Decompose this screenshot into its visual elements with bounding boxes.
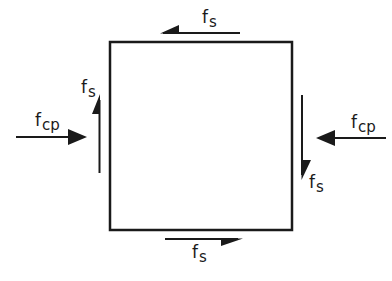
label-base: f [202,7,208,27]
label-subscript: s [199,248,207,266]
diagram-canvas [0,0,392,281]
shear-left-arrow [92,94,100,173]
label-shear-left: fs [81,79,96,96]
shear-right-arrow [302,95,312,180]
label-compression-right: fcp [351,114,376,131]
label-subscript: s [316,178,324,196]
label-subscript: s [88,83,96,101]
stress-element-square [110,42,292,230]
label-base: f [351,112,357,132]
label-base: f [35,110,41,130]
label-shear-top: fs [202,9,217,26]
label-shear-bottom: fs [192,244,207,261]
label-base: f [309,172,315,192]
stress-element-diagram: fs fs fs fs fcp fcp [0,0,392,281]
shear-top-arrow [160,25,240,34]
label-subscript: cp [42,116,60,134]
label-subscript: s [209,13,217,31]
label-subscript: cp [358,118,376,136]
label-base: f [192,242,198,262]
label-compression-left: fcp [35,112,60,129]
label-shear-right: fs [309,174,324,191]
label-base: f [81,77,87,97]
